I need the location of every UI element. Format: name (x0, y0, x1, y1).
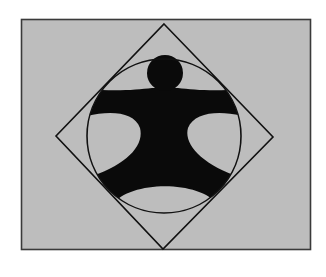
diagram-figure (0, 0, 326, 277)
